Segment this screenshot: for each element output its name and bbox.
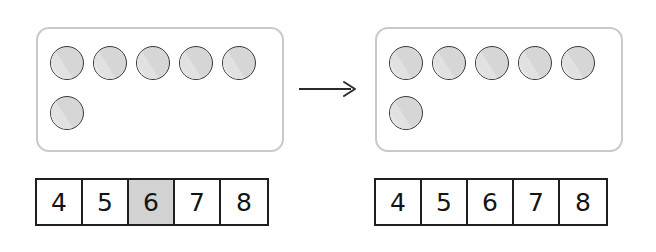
counter-circle[interactable] [93, 46, 127, 80]
number-cell[interactable]: 7 [514, 180, 560, 224]
counter-circle[interactable] [475, 46, 509, 80]
counter-row-bottom-before [50, 96, 84, 130]
counter-circle[interactable] [136, 46, 170, 80]
counter-row-top-after [389, 46, 595, 80]
counter-circle[interactable] [50, 96, 84, 130]
counter-group-before: 4 5 6 7 8 [26, 0, 316, 252]
number-cell[interactable]: 4 [376, 180, 422, 224]
number-cell-highlighted[interactable]: 6 [129, 180, 175, 224]
counter-circle[interactable] [432, 46, 466, 80]
counter-circle[interactable] [389, 46, 423, 80]
right-arrow-icon [298, 78, 360, 100]
counter-panel-after [375, 27, 623, 152]
counter-circle[interactable] [518, 46, 552, 80]
counter-circle[interactable] [179, 46, 213, 80]
worksheet-canvas: 4 5 6 7 8 4 [0, 0, 656, 252]
counter-group-after: 4 5 6 7 8 [365, 0, 655, 252]
number-cell[interactable]: 7 [175, 180, 221, 224]
number-cell[interactable]: 8 [221, 180, 267, 224]
counter-circle[interactable] [222, 46, 256, 80]
counter-circle[interactable] [561, 46, 595, 80]
counter-panel-before [36, 27, 284, 152]
number-cell[interactable]: 5 [83, 180, 129, 224]
number-cell[interactable]: 4 [37, 180, 83, 224]
number-cell[interactable]: 6 [468, 180, 514, 224]
number-cell[interactable]: 8 [560, 180, 606, 224]
number-cell[interactable]: 5 [422, 180, 468, 224]
counter-row-bottom-after [389, 96, 423, 130]
number-strip-after: 4 5 6 7 8 [374, 178, 608, 226]
counter-row-top-before [50, 46, 256, 80]
counter-circle[interactable] [389, 96, 423, 130]
counter-circle[interactable] [50, 46, 84, 80]
number-strip-before: 4 5 6 7 8 [35, 178, 269, 226]
